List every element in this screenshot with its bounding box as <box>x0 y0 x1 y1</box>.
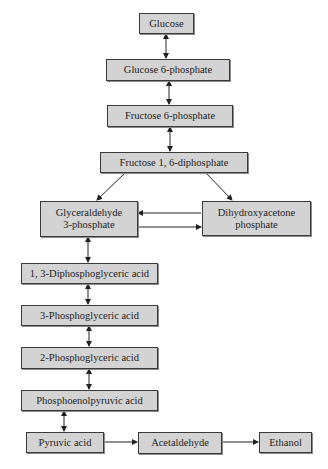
node-fructose-6-phosphate: Fructose 6-phosphate <box>107 105 233 127</box>
edge-f16dp-g3p <box>97 173 125 200</box>
node-fructose-1-6-diphosphate: Fructose 1, 6-diphosphate <box>100 152 248 173</box>
node-2-phosphoglyceric-acid: 2-Phosphoglyceric acid <box>21 347 158 369</box>
node-acetaldehyde: Acetaldehyde <box>138 432 222 454</box>
node-phosphoenolpyruvic-acid: Phosphoenolpyruvic acid <box>21 390 158 411</box>
node-3-phosphoglyceric-acid: 3-Phosphoglyceric acid <box>21 305 158 326</box>
node-glyceraldehyde-3-phosphate: Glyceraldehyde 3-phosphate <box>40 201 138 237</box>
edge-f16dp-dhap <box>206 173 232 200</box>
node-ethanol: Ethanol <box>259 432 312 453</box>
node-glucose: Glucose <box>139 13 194 34</box>
node-1-3-diphosphoglyceric-acid: 1, 3-Diphosphoglyceric acid <box>21 263 158 284</box>
node-dihydroxyacetone-phosphate: Dihydroxyacetone phosphate <box>202 201 311 236</box>
node-pyruvic-acid: Pyruvic acid <box>26 432 104 453</box>
node-glucose-6-phosphate: Glucose 6-phosphate <box>106 59 230 81</box>
